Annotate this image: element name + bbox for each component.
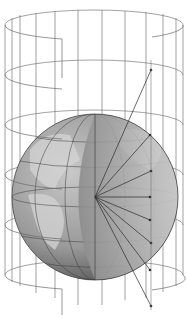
cylindrical-projection-diagram <box>0 0 187 318</box>
